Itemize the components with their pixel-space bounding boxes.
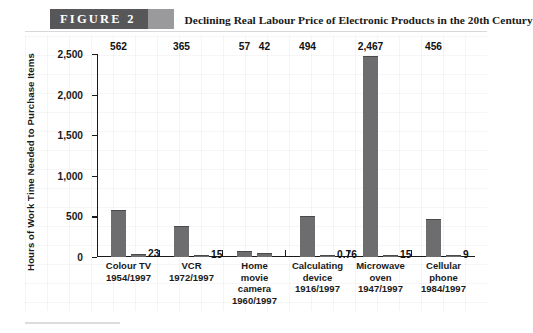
- y-axis-tick-label: 1,500: [58, 130, 84, 141]
- bar-wrapper: 23: [131, 54, 146, 257]
- bar-group: 4940.76: [286, 54, 349, 257]
- chart-area: Hours of Work Time Needed to Purchase It…: [25, 36, 487, 311]
- header-divider: [25, 31, 487, 32]
- y-axis-tick: 0: [92, 257, 97, 258]
- bar-value-label: 23: [148, 248, 159, 259]
- y-axis-tick-label: 2,000: [58, 89, 84, 100]
- bar-wrapper: 9: [446, 54, 461, 257]
- bar-groups: 562233651557424940.762,467154569: [97, 54, 475, 257]
- bar-value-label: 9: [463, 249, 469, 260]
- bar-wrapper: 494: [300, 54, 315, 257]
- bar[interactable]: [320, 255, 335, 257]
- bar[interactable]: [237, 251, 252, 257]
- x-axis-category-label: Colour TV1954/1997: [97, 260, 160, 306]
- bar-wrapper: 15: [194, 54, 209, 257]
- bar-wrapper: 57: [237, 54, 252, 257]
- bar-value-label: 562: [110, 41, 127, 52]
- y-axis-tick-label: 1,000: [58, 170, 84, 181]
- x-axis-category-label: Homemoviecamera1960/1997: [223, 260, 286, 306]
- y-axis-tick-label: 500: [66, 211, 83, 222]
- bar[interactable]: [446, 255, 461, 257]
- y-axis-tick-label: 2,500: [58, 49, 84, 60]
- bar[interactable]: [363, 56, 378, 257]
- bar[interactable]: [194, 255, 209, 257]
- bar-group: 5742: [223, 54, 286, 257]
- bar[interactable]: [426, 219, 441, 257]
- bar[interactable]: [111, 210, 126, 257]
- bar-wrapper: 456: [426, 54, 441, 257]
- bar[interactable]: [131, 254, 146, 257]
- x-axis-category-label: VCR1972/1997: [160, 260, 223, 306]
- figure-band: FIGURE 2: [50, 9, 174, 29]
- x-axis-category-label: Microwaveoven1947/1997: [349, 260, 412, 306]
- bar[interactable]: [174, 226, 189, 257]
- bar-group: 2,46715: [349, 54, 412, 257]
- y-axis-title: Hours of Work Time Needed to Purchase It…: [23, 44, 39, 280]
- bar[interactable]: [300, 216, 315, 257]
- bar[interactable]: [257, 253, 272, 257]
- x-axis-category-label: Calculatingdevice1916/1997: [286, 260, 349, 306]
- bar-wrapper: 365: [174, 54, 189, 257]
- figure-label: FIGURE 2: [50, 12, 148, 27]
- bar-wrapper: 42: [257, 54, 272, 257]
- bar-value-label: 15: [211, 249, 222, 260]
- bar-value-label: 15: [400, 249, 411, 260]
- figure-header: FIGURE 2 Declining Real Labour Price of …: [0, 9, 512, 31]
- bar-wrapper: 562: [111, 54, 126, 257]
- bar-value-label: 2,467: [358, 41, 384, 52]
- bar[interactable]: [383, 255, 398, 257]
- bar-value-label: 42: [259, 41, 270, 52]
- bar-value-label: 494: [299, 41, 316, 52]
- y-axis-tick-label: 0: [77, 252, 83, 263]
- x-axis-category-label: Cellularphone1984/1997: [412, 260, 475, 306]
- bar-group: 56223: [97, 54, 160, 257]
- bar-value-label: 57: [239, 41, 250, 52]
- plot-region: 05001,0001,5002,0002,500 562233651557424…: [97, 54, 475, 257]
- bar-wrapper: 0.76: [320, 54, 335, 257]
- bar-wrapper: 2,467: [363, 54, 378, 257]
- bar-wrapper: 15: [383, 54, 398, 257]
- footer-divider: [25, 322, 120, 324]
- bar-group: 36515: [160, 54, 223, 257]
- figure-title: Declining Real Labour Price of Electroni…: [185, 14, 533, 26]
- bar-group: 4569: [412, 54, 475, 257]
- figure-band-accent-right: [148, 9, 174, 29]
- x-axis-category-labels: Colour TV1954/1997VCR1972/1997Homemoviec…: [97, 260, 475, 306]
- bar-value-label: 365: [173, 41, 190, 52]
- bar-value-label: 456: [425, 41, 442, 52]
